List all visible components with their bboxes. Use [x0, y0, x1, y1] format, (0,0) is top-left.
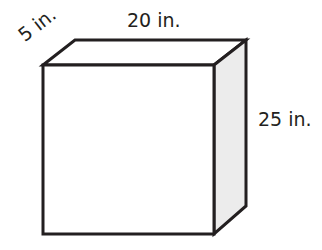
side-face: [214, 40, 246, 234]
rectangular-prism-figure: 5 in. 20 in. 25 in.: [0, 0, 322, 250]
height-label: 25 in.: [258, 110, 312, 129]
top-face: [43, 40, 246, 65]
front-face: [43, 65, 214, 234]
width-label: 20 in.: [127, 11, 181, 30]
